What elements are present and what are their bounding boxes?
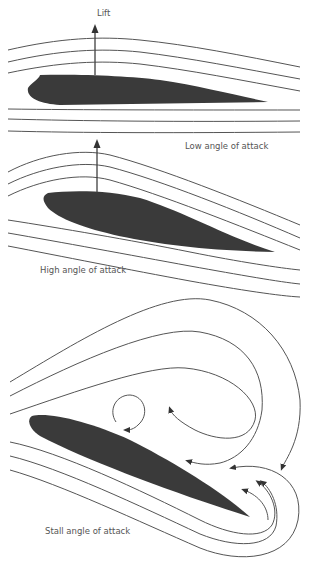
streamline — [8, 131, 300, 133]
stall-angle-label: Stall angle of attack — [45, 526, 130, 536]
vortex-circle — [113, 395, 145, 430]
low-angle-label: Low angle of attack — [185, 141, 268, 151]
airfoil-diagram: Lift Low angle of attack High angle of a… — [0, 0, 310, 564]
airfoil-stall — [29, 415, 250, 517]
airfoil-low — [28, 75, 268, 105]
lift-label: Lift — [97, 8, 111, 18]
panel-low-angle: Lift Low angle of attack — [8, 8, 300, 151]
streamline — [8, 109, 300, 110]
high-angle-label: High angle of attack — [40, 265, 126, 275]
panel-stall-angle: Stall angle of attack — [10, 299, 300, 557]
panel-high-angle: High angle of attack — [8, 143, 300, 297]
streamline — [8, 50, 300, 79]
streamline — [8, 119, 300, 121]
streamline — [8, 38, 300, 67]
